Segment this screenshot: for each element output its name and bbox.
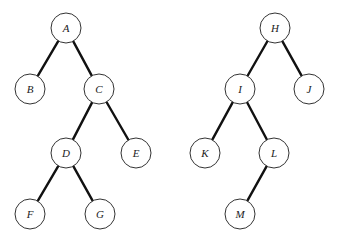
- tree-node-g: G: [85, 199, 115, 229]
- node-label: G: [96, 208, 104, 220]
- tree-node-i: I: [225, 74, 255, 104]
- tree-node-d: D: [51, 138, 81, 168]
- tree-node-m: M: [225, 199, 255, 229]
- edge-d-f: [38, 166, 59, 201]
- tree-node-j: J: [294, 74, 324, 104]
- node-label: L: [270, 147, 277, 159]
- tree-node-a: A: [51, 13, 81, 43]
- edge-i-k: [212, 102, 233, 140]
- edge-h-j: [282, 41, 301, 76]
- node-label: A: [62, 22, 70, 34]
- edge-l-m: [247, 166, 266, 201]
- edge-d-g: [73, 166, 92, 201]
- tree-node-h: H: [260, 13, 290, 43]
- edge-i-l: [247, 102, 267, 140]
- tree-node-b: B: [15, 74, 45, 104]
- node-label: C: [95, 83, 103, 95]
- tree-node-e: E: [121, 138, 151, 168]
- node-label: B: [27, 83, 34, 95]
- node-label: F: [26, 208, 34, 220]
- node-label: K: [200, 147, 209, 159]
- tree-diagram: ABCDEFGHIJKLM: [0, 0, 341, 242]
- edge-c-d: [73, 102, 92, 139]
- edges-layer: [38, 41, 302, 201]
- tree-node-c: C: [84, 74, 114, 104]
- edge-a-b: [38, 41, 59, 76]
- node-label: D: [61, 147, 70, 159]
- tree-node-k: K: [190, 138, 220, 168]
- node-label: H: [270, 22, 280, 34]
- node-label: M: [234, 208, 245, 220]
- edge-a-c: [73, 41, 92, 76]
- tree-node-l: L: [259, 138, 289, 168]
- node-label: E: [132, 147, 140, 159]
- tree-node-f: F: [15, 199, 45, 229]
- nodes-layer: ABCDEFGHIJKLM: [15, 13, 324, 229]
- edge-c-e: [107, 102, 129, 140]
- edge-h-i: [247, 41, 267, 76]
